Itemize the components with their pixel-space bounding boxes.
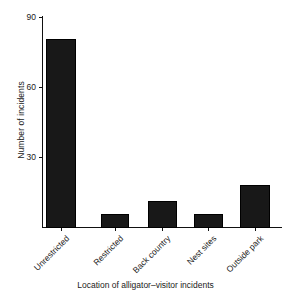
- plot-area: [42, 16, 282, 228]
- x-tick-mark-nest-sites: [208, 228, 209, 231]
- y-tick-label-60: 60: [0, 83, 36, 92]
- x-tick-label-nest-sites: Nest sites: [170, 234, 219, 283]
- x-tick-label-restricted: Restricted: [74, 234, 126, 286]
- x-tick-mark-unrestricted: [61, 228, 62, 231]
- bar-outside-park: [240, 185, 270, 228]
- bar-chart-figure: Number of incidents 90 60 30 Unrestricte…: [0, 0, 291, 295]
- bar-unrestricted: [46, 39, 76, 228]
- y-tick-label-30: 30: [0, 153, 36, 162]
- x-tick-mark-outside-park: [255, 228, 256, 231]
- x-tick-mark-back-country: [162, 228, 163, 231]
- bar-nest-sites: [194, 214, 223, 228]
- bar-restricted: [101, 214, 129, 228]
- x-axis-title: Location of alligator–visitor incidents: [0, 280, 291, 290]
- y-axis-title: Number of incidents: [14, 40, 28, 200]
- x-tick-mark-restricted: [115, 228, 116, 231]
- bar-back-country: [148, 201, 177, 228]
- y-tick-label-90: 90: [0, 13, 36, 22]
